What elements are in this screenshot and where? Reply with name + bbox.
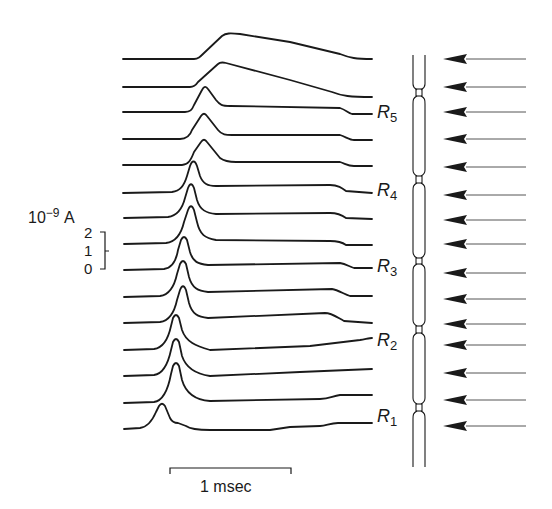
internode-3-2 <box>413 264 425 326</box>
arrow <box>443 162 526 172</box>
arrow <box>443 190 526 200</box>
current-units-label: 10−9 A <box>28 206 75 227</box>
trace-3 <box>123 87 372 114</box>
node-label-r3: R3 <box>377 256 397 279</box>
trace-2 <box>123 62 372 97</box>
arrow <box>443 340 526 350</box>
trace-8 <box>124 206 372 245</box>
figure-canvas <box>0 0 552 509</box>
trace-15 <box>124 404 372 430</box>
trace-6 <box>123 162 372 194</box>
time-scale-bar <box>170 468 291 474</box>
fibre-bottom-segment <box>413 411 425 467</box>
node-r1 <box>416 404 422 411</box>
arrow <box>443 368 526 378</box>
trace-7 <box>124 184 372 219</box>
internode-5-4 <box>413 96 425 176</box>
fibre-top-segment <box>413 55 425 90</box>
trace-12 <box>124 315 372 350</box>
arrow <box>443 319 526 329</box>
trace-14 <box>124 363 372 403</box>
current-tick-1: 1 <box>84 244 92 258</box>
current-traces <box>123 33 372 430</box>
node-label-r4: R4 <box>377 180 397 203</box>
arrow <box>443 294 526 304</box>
arrow <box>443 82 526 92</box>
node-label-r5: R5 <box>377 102 397 125</box>
arrow <box>443 215 526 225</box>
current-scale-bracket <box>100 232 109 269</box>
internode-4-3 <box>413 183 425 258</box>
myelinated-fibre <box>413 55 425 467</box>
trace-13 <box>124 339 372 376</box>
trace-4 <box>123 114 372 140</box>
node-r3 <box>416 258 422 264</box>
current-tick-2: 2 <box>84 226 92 240</box>
current-tick-0: 0 <box>84 262 92 276</box>
trace-1 <box>123 33 372 59</box>
time-scale-label: 1 msec <box>200 478 252 496</box>
arrow <box>443 268 526 278</box>
node-r2 <box>416 326 422 333</box>
arrow <box>443 54 526 64</box>
arrow <box>443 239 526 249</box>
trace-5 <box>123 140 372 166</box>
arrow <box>443 134 526 144</box>
node-r4 <box>416 176 422 183</box>
stimulus-arrows <box>443 54 526 431</box>
node-label-r2: R2 <box>377 330 397 353</box>
arrow <box>443 395 526 405</box>
trace-10 <box>124 261 372 297</box>
node-label-r1: R1 <box>377 406 397 429</box>
internode-2-1 <box>413 333 425 404</box>
arrow <box>443 421 526 431</box>
arrow <box>443 107 526 117</box>
